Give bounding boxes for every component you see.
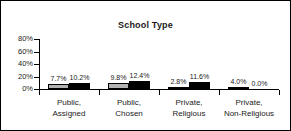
category-label-line: Public, bbox=[99, 97, 159, 108]
bar-value-label: 10.2% bbox=[64, 74, 95, 81]
category-label-line: Non-Religious bbox=[219, 108, 279, 119]
bar-series-b-1 bbox=[129, 81, 150, 89]
category-label-line: Public, bbox=[39, 97, 99, 108]
chart-figure: School Type 80%60%40%20%0% 7.7%10.2%9.8%… bbox=[0, 0, 291, 131]
y-axis-line bbox=[39, 39, 40, 90]
category-label-3: Private,Non-Religious bbox=[219, 97, 279, 119]
category-label-line: Chosen bbox=[99, 108, 159, 119]
y-axis-tick-label: 0% bbox=[3, 85, 33, 93]
bar-series-b-0 bbox=[69, 83, 90, 89]
y-axis-tick-mark bbox=[34, 39, 39, 40]
y-axis-tick-label: 80% bbox=[3, 35, 33, 43]
category-label-0: Public,Assigned bbox=[39, 97, 99, 119]
y-axis-tick-mark bbox=[34, 89, 39, 90]
x-axis-tick-mark bbox=[219, 90, 220, 95]
x-axis-tick-mark bbox=[279, 90, 280, 95]
y-axis-tick-mark bbox=[34, 77, 39, 78]
x-axis-tick-mark bbox=[99, 90, 100, 95]
category-label-line: Private, bbox=[159, 97, 219, 108]
bar-value-label: 12.4% bbox=[124, 72, 155, 79]
category-label-1: Public,Chosen bbox=[99, 97, 159, 119]
bar-value-label: 0.0% bbox=[244, 80, 275, 87]
y-axis-tick-mark bbox=[34, 64, 39, 65]
bar-value-label: 11.6% bbox=[184, 73, 215, 80]
y-axis-tick-label: 60% bbox=[3, 48, 33, 56]
bar-series-a-1 bbox=[108, 83, 129, 89]
y-axis-tick-mark bbox=[34, 52, 39, 53]
category-label-line: Religious bbox=[159, 108, 219, 119]
x-axis-tick-mark bbox=[159, 90, 160, 95]
category-label-2: Private,Religious bbox=[159, 97, 219, 119]
category-label-line: Assigned bbox=[39, 108, 99, 119]
category-label-line: Private, bbox=[219, 97, 279, 108]
y-axis-tick-label: 40% bbox=[3, 60, 33, 68]
x-axis-tick-mark bbox=[39, 90, 40, 95]
y-axis-tick-label: 20% bbox=[3, 73, 33, 81]
bar-series-a-2 bbox=[168, 87, 189, 89]
chart-title: School Type bbox=[1, 20, 290, 30]
bar-series-a-0 bbox=[48, 84, 69, 89]
